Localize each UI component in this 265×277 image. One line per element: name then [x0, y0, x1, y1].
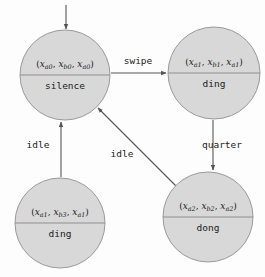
node-silence-label: silence	[45, 80, 85, 91]
diagram-canvas: swipe quarter idle idle (xa0, xb0, xa0) …	[0, 0, 265, 277]
node-ding-bottom-label: ding	[49, 228, 72, 239]
edge-label-quarter: quarter	[202, 139, 242, 150]
edge-label-idle-diagonal: idle	[111, 148, 134, 159]
edge-label-swipe: swipe	[124, 55, 153, 66]
node-dong-label: dong	[197, 222, 220, 233]
node-dong[interactable]: (xa2, xb2, xa2) dong	[163, 172, 253, 262]
edge-silence-to-ding-top: swipe	[111, 55, 166, 73]
node-ding-top-label: ding	[203, 78, 226, 89]
edge-label-idle-left: idle	[27, 139, 50, 150]
node-ding-bottom[interactable]: (xa1, xb3, xa1) ding	[15, 178, 105, 268]
state-machine-diagram: swipe quarter idle idle (xa0, xb0, xa0) …	[0, 0, 265, 277]
node-ding-top[interactable]: (xa1, xb1, xa1) ding	[168, 27, 260, 119]
edge-ding-bottom-to-silence: idle	[27, 122, 61, 177]
node-silence[interactable]: (xa0, xb0, xa0) silence	[20, 30, 110, 120]
edge-ding-top-to-dong: quarter	[202, 120, 242, 170]
edge-dong-to-silence: idle	[98, 108, 176, 186]
